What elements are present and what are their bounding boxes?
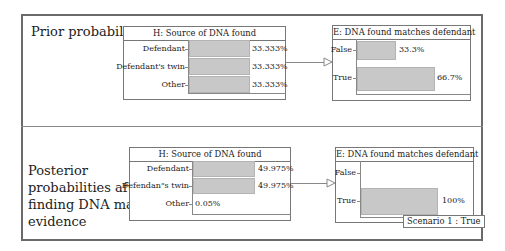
prob-bar-true — [357, 67, 435, 91]
state-label-twin: Defendan"s twin — [122, 181, 189, 191]
tick — [189, 169, 192, 170]
tick — [185, 49, 188, 50]
tick — [185, 85, 188, 86]
state-label-twin: Defendant's twin — [116, 62, 185, 72]
causal-edge-line — [286, 62, 324, 63]
section-divider — [21, 126, 483, 127]
prob-bar-other — [189, 76, 250, 93]
node-title: E: DNA found matches defendant — [336, 148, 473, 162]
prob-value-defendant: 33.333% — [252, 44, 288, 54]
tick — [353, 78, 356, 79]
prob-value-true: 66.7% — [437, 73, 462, 83]
node-title: H: Source of DNA found — [130, 148, 290, 162]
tick — [189, 186, 192, 187]
prob-value-twin: 49.975% — [258, 181, 294, 191]
state-label-defendant: Defendant — [147, 164, 189, 174]
state-label-true: True — [333, 73, 352, 83]
tick — [353, 50, 356, 51]
tick — [185, 67, 188, 68]
scenario-tag: Scenario 1 : True — [403, 215, 485, 228]
node-title: E: DNA found matches defendant — [333, 26, 470, 40]
prob-bar-defendant — [193, 161, 255, 177]
prob-bar-true — [361, 188, 438, 215]
causal-edge-line — [291, 183, 327, 184]
state-label-false: False — [335, 168, 356, 178]
prob-value-false: 33.3% — [399, 45, 424, 55]
prob-value-other: 0.05% — [195, 199, 220, 209]
prob-value-twin: 33.333% — [252, 62, 288, 72]
prob-value-other: 33.333% — [252, 80, 288, 90]
prob-value-defendant: 49.975% — [258, 164, 294, 174]
tick — [357, 201, 360, 202]
state-label-true: True — [337, 196, 356, 206]
prob-bar-defendant — [189, 40, 250, 57]
prob-bar-false — [357, 41, 396, 60]
tick — [357, 173, 360, 174]
prob-bar-twin — [189, 58, 250, 75]
prob-bar-twin — [193, 178, 255, 194]
state-label-defendant: Defendant — [143, 44, 185, 54]
state-label-other: Other — [162, 80, 185, 90]
node-title: H: Source of DNA found — [124, 27, 285, 41]
tick — [189, 204, 192, 205]
state-label-other: Other — [166, 199, 189, 209]
prob-value-true: 100% — [442, 196, 465, 206]
state-label-false: False — [331, 45, 352, 55]
